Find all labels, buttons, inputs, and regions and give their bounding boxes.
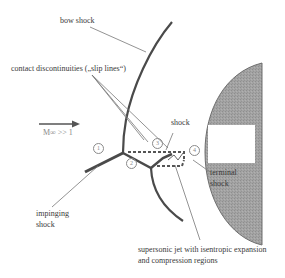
leader-supersonic-jet [175,165,200,240]
freestream-arrow-icon [72,121,80,128]
terminal-shock-label-box [208,125,255,163]
marker-1: 1 [93,143,104,154]
label-impinging-shock-2: shock [36,220,55,230]
marker-2: 2 [126,158,137,169]
label-impinging-shock-1: impinging [36,209,69,219]
label-contact-discontinuities: contact discontinuities („slip lines“) [11,64,126,74]
impinging-shock-line [85,153,123,172]
marker-4: 4 [189,145,200,156]
leader-slip-line-2 [92,75,148,142]
label-terminal-shock-1: terminal [210,168,237,178]
label-terminal-shock-2: shock [210,179,229,189]
lower-shock-line [151,168,183,221]
label-supersonic-jet-2: and compression regions [138,256,218,266]
label-shock: shock [171,118,190,128]
leader-bow-shock [90,27,146,52]
label-supersonic-jet-1: supersonic jet with isentropic expansion [138,245,266,255]
marker-3: 3 [152,138,163,149]
leader-impinging-shock [52,166,98,207]
label-bow-shock: bow shock [60,16,94,26]
label-mach-number: M∞ >> 1 [43,128,73,138]
leader-shock [166,133,173,150]
bow-shock-line [123,22,172,153]
